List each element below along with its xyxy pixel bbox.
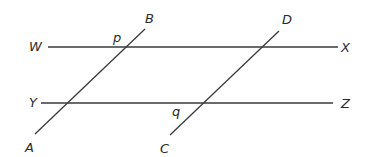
diagram-svg: W X Y Z A B C D p q bbox=[0, 0, 372, 157]
label-a: A bbox=[24, 140, 34, 155]
label-d: D bbox=[282, 12, 292, 27]
transversal-ab bbox=[35, 29, 145, 134]
label-w: W bbox=[29, 39, 43, 54]
angle-label-q: q bbox=[172, 104, 180, 119]
label-c: C bbox=[160, 141, 170, 156]
label-y: Y bbox=[29, 95, 38, 110]
angle-label-p: p bbox=[112, 30, 121, 45]
label-x: X bbox=[340, 40, 351, 55]
label-z: Z bbox=[340, 96, 351, 111]
geometry-diagram: W X Y Z A B C D p q bbox=[0, 0, 372, 157]
label-b: B bbox=[145, 11, 154, 26]
